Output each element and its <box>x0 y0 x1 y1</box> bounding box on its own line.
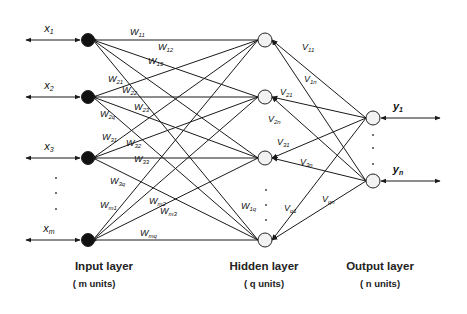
weight-label-Wm1: Wm1 <box>100 200 117 211</box>
weight-label-Vqn: Vqn <box>322 194 335 205</box>
weight-label-W11: W11 <box>130 27 145 38</box>
weight-label-Vq1: Vq1 <box>284 203 297 214</box>
input-label-x3: x3 <box>43 140 54 153</box>
input-layer-title: Input layer <box>75 260 134 272</box>
weight-label-Wm3: Wm3 <box>160 206 177 217</box>
hidden-node <box>258 233 272 247</box>
output-hidden-edge <box>272 158 366 181</box>
weight-label-Wmq: Wmq <box>140 228 157 239</box>
weight-label-V11: V11 <box>302 42 314 53</box>
weight-label-W22: W22 <box>122 85 138 96</box>
weight-label-W13: W13 <box>148 56 164 67</box>
ellipsis-dot <box>55 177 57 179</box>
weight-label-V31: V31 <box>277 137 290 148</box>
input-label-x2: x2 <box>43 79 54 92</box>
input-node <box>82 34 95 47</box>
weight-label-W21: W21 <box>108 74 123 85</box>
weight-label-W23: W23 <box>134 102 150 113</box>
output-hidden-edge <box>272 97 366 118</box>
weight-label-V3n: V3n <box>300 157 313 168</box>
hidden-node <box>258 33 272 47</box>
weight-labels: W11W12W13W21W22W23W2qW31W32W33W3qWm1Wm2W… <box>100 27 335 239</box>
weight-label-W31: W31 <box>102 132 117 143</box>
input-layer-units: ( m units) <box>73 278 116 289</box>
input-label-x1: x1 <box>43 22 54 35</box>
output-label-yn: yn <box>392 163 403 176</box>
output-hidden-edge <box>272 40 366 181</box>
weight-label-W32: W32 <box>126 138 142 149</box>
hidden-node <box>258 151 272 165</box>
weight-label-V2n: V2n <box>268 114 281 125</box>
output-label-y1: y1 <box>392 100 403 113</box>
ellipsis-dot <box>265 204 267 206</box>
output-layer-title: Output layer <box>346 260 414 272</box>
weight-label-V21: V21 <box>280 87 293 98</box>
ellipsis-dot <box>55 208 57 210</box>
output-hidden-edge <box>272 118 366 240</box>
ellipsis-dot <box>265 189 267 191</box>
ellipsis-dot <box>372 163 374 165</box>
ellipsis-dot <box>372 147 374 149</box>
hidden-node <box>258 90 272 104</box>
input-node <box>82 91 95 104</box>
input-label-xm: xm <box>42 222 55 235</box>
ellipsis-dot <box>55 192 57 194</box>
output-node <box>366 111 380 125</box>
input-node <box>82 152 95 165</box>
output-node <box>366 174 380 188</box>
io-arrows: x1x2x3xmy1yn <box>26 22 440 240</box>
ellipsis-dot <box>265 219 267 221</box>
input-node <box>82 234 95 247</box>
weight-label-W2q: W2q <box>100 109 116 120</box>
weight-label-W1q: W1q <box>241 201 257 212</box>
neural-network-diagram: x1x2x3xmy1yn W11W12W13W21W22W23W2qW31W32… <box>0 0 467 314</box>
output-hidden-edge <box>272 40 366 118</box>
weight-label-W12: W12 <box>158 42 174 53</box>
output-hidden-edge <box>272 118 366 158</box>
ellipsis-dot <box>372 134 374 136</box>
hidden-layer-units: ( q units) <box>244 278 284 289</box>
hidden-layer-title: Hidden layer <box>229 260 299 272</box>
weight-label-W33: W33 <box>134 154 150 165</box>
output-layer-units: ( n units) <box>360 278 400 289</box>
weight-label-W3q: W3q <box>110 176 126 187</box>
